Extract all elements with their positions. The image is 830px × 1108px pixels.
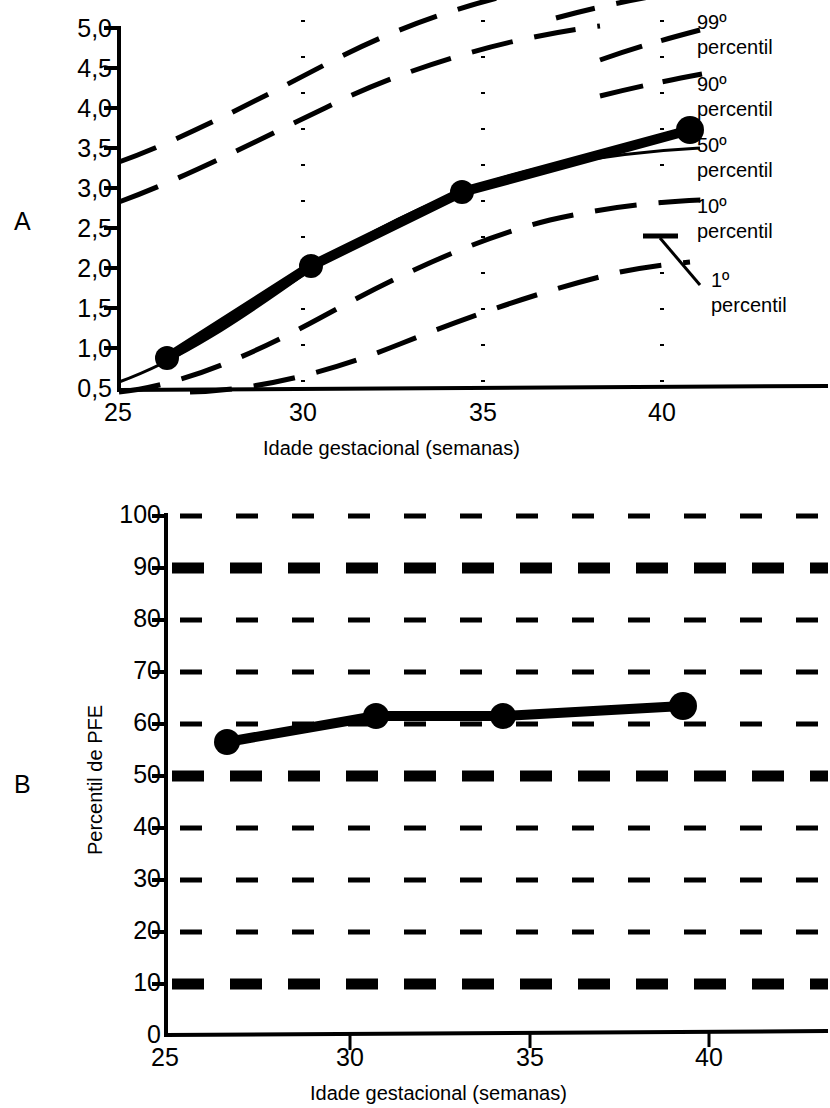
legend-label-1: 1ºpercentil — [711, 268, 787, 318]
panel-a-data-point-1 — [155, 346, 179, 370]
panel-a-ytick-5_0: 5,0 — [42, 14, 112, 43]
panel-b-xaxis-title: Idade gestacional (semanas) — [310, 1082, 567, 1105]
panel-b-ytick-20: 20 — [95, 916, 161, 945]
panel-b-data-point-3 — [490, 703, 516, 729]
panel-b-reference-lines — [172, 516, 828, 984]
panel-b-patient-series — [214, 692, 697, 755]
panel-a-data-point-3 — [450, 180, 474, 204]
panel-a-ytick-3_5: 3,5 — [42, 134, 112, 163]
panel-b-ytick-90: 90 — [95, 552, 161, 581]
legend-label-90: 90ºpercentil — [697, 72, 773, 122]
panel-a-ytick-1_0: 1,0 — [42, 334, 112, 363]
panel-b-ytick-100: 100 — [95, 500, 161, 529]
panel-b-axes — [152, 513, 828, 1050]
panel-b-ytick-80: 80 — [95, 604, 161, 633]
panel-a-patient-line — [167, 130, 690, 358]
panel-b-data-point-4 — [669, 692, 697, 720]
panel-a-vertical-gridlines — [303, 20, 662, 388]
panel-a-ytick-2_5: 2,5 — [42, 214, 112, 243]
panel-a-xtick-40: 40 — [632, 398, 692, 427]
curve-50th-percentile — [119, 148, 700, 382]
panel-a-percentile-curves — [119, 0, 702, 392]
panel-b-patient-line — [227, 706, 683, 742]
panel-a-xtick-25: 25 — [88, 398, 148, 427]
callout-leader-line-1st-percentile — [660, 238, 700, 285]
panel-b-y-ticks — [152, 516, 166, 984]
panel-a-letter: A — [14, 207, 31, 236]
legend-label-50: 50ºpercentil — [697, 133, 773, 183]
curve-90th-percentile-tail — [600, 74, 702, 96]
curve-99th-percentile-upper — [556, 0, 690, 18]
legend-label-99: 99ºpercentil — [697, 10, 773, 60]
panel-b-letter: B — [14, 770, 31, 799]
panel-a-xaxis-title: Idade gestacional (semanas) — [263, 437, 520, 460]
panel-a-ytick-1_5: 1,5 — [42, 294, 112, 323]
curve-1st-percentile — [190, 262, 690, 392]
panel-a-xtick-30: 30 — [273, 398, 333, 427]
curve-10th-percentile — [119, 200, 702, 392]
panel-a-ytick-3_0: 3,0 — [42, 174, 112, 203]
panel-b-ytick-40: 40 — [95, 812, 161, 841]
figure-container: A 5,0 4,5 4,0 3,5 3,0 2,5 2,0 1,5 1,0 0,… — [0, 0, 830, 1108]
panel-a-x-axis-line — [119, 386, 828, 390]
panel-a-data-point-2 — [299, 254, 323, 278]
panel-a-patient-series — [155, 116, 704, 370]
panel-b-x-axis-line — [166, 1031, 828, 1035]
panel-b-ytick-60: 60 — [95, 708, 161, 737]
panel-a-ytick-4_5: 4,5 — [42, 54, 112, 83]
curve-90th-percentile — [119, 26, 600, 202]
panel-b-xtick-40: 40 — [679, 1043, 739, 1072]
panel-a-ytick-4_0: 4,0 — [42, 94, 112, 123]
panel-b-ytick-50: 50 — [95, 760, 161, 789]
curve-99th-percentile — [119, 0, 530, 162]
panel-b-ytick-70: 70 — [95, 656, 161, 685]
panel-a-ytick-2_0: 2,0 — [42, 254, 112, 283]
panel-b-data-point-2 — [363, 703, 389, 729]
panel-b-xtick-30: 30 — [320, 1043, 380, 1072]
panel-a-xtick-35: 35 — [453, 398, 513, 427]
panel-b-ytick-30: 30 — [95, 864, 161, 893]
curve-99th-percentile-tail — [600, 30, 700, 60]
panel-b-ytick-10: 10 — [95, 968, 161, 997]
legend-label-10: 10ºpercentil — [697, 194, 773, 244]
panel-b-data-point-1 — [214, 729, 240, 755]
panel-b-xtick-25: 25 — [135, 1043, 195, 1072]
panel-b-xtick-35: 35 — [500, 1043, 560, 1072]
